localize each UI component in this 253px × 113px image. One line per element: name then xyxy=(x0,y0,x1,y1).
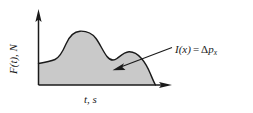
impulse-equation-label: I(x)=Δpx xyxy=(175,44,217,56)
x-axis-label: t, s xyxy=(84,94,97,105)
impulse-symbol: I(x) xyxy=(175,43,191,55)
impulse-momentum-figure: F(t), N t, s I(x)=Δpx xyxy=(0,0,253,113)
equals-sign: = xyxy=(191,43,201,55)
y-axis-label: F(t), N xyxy=(8,60,19,74)
momentum-subscript: x xyxy=(214,48,217,57)
